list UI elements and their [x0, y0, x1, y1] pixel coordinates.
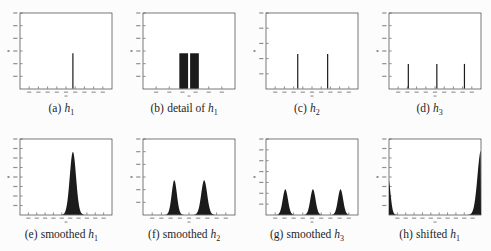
caption-text: shifted	[416, 228, 450, 240]
caption-text: detail of	[167, 102, 208, 114]
subplot-d-caption: (d)h3	[416, 102, 442, 115]
subplot-g: (g)smoothed h3	[246, 126, 369, 251]
subplot-a: (a)h1	[0, 0, 123, 126]
caption-subscript: 3	[340, 234, 344, 243]
caption-text: smoothed	[287, 228, 335, 240]
subplot-h-caption: (h)shifted h1	[399, 228, 460, 241]
caption-subscript: 1	[70, 108, 74, 117]
plot-d-canvas	[369, 0, 491, 101]
plot-g-canvas	[246, 126, 368, 227]
subplot-a-caption: (a)h1	[49, 102, 75, 115]
plot-h-canvas	[369, 126, 491, 227]
plot-f-canvas	[123, 126, 245, 227]
subplot-c: (c)h2	[246, 0, 369, 126]
subplot-b: (b)detail of h1	[123, 0, 246, 126]
caption-subscript: 1	[94, 234, 98, 243]
caption-text: smoothed	[163, 228, 211, 240]
plot-a-canvas	[0, 0, 122, 101]
subplot-e-caption: (e)smoothed h1	[25, 228, 98, 241]
caption-tag: (c)	[294, 102, 307, 114]
caption-subscript: 2	[216, 234, 220, 243]
subplot-f-caption: (f)smoothed h2	[148, 228, 220, 241]
plot-c-canvas	[246, 0, 368, 101]
caption-subscript: 2	[316, 108, 320, 117]
caption-tag: (f)	[148, 228, 160, 240]
caption-tag: (b)	[150, 102, 163, 114]
plot-e-canvas	[0, 126, 122, 227]
caption-text: smoothed	[41, 228, 89, 240]
caption-tag: (h)	[399, 228, 412, 240]
subplot-h: (h)shifted h1	[368, 126, 491, 251]
caption-tag: (e)	[25, 228, 38, 240]
subplot-e: (e)smoothed h1	[0, 126, 123, 251]
subplot-f: (f)smoothed h2	[123, 126, 246, 251]
histogram-figure: (a)h1 (b)detail of h1 (c)h2 (d)h3 (e)smo…	[0, 0, 491, 251]
caption-subscript: 3	[439, 108, 443, 117]
caption-tag: (d)	[416, 102, 429, 114]
subplot-d: (d)h3	[368, 0, 491, 126]
caption-subscript: 1	[214, 108, 218, 117]
plot-b-canvas	[123, 0, 245, 101]
caption-tag: (g)	[270, 228, 283, 240]
subplot-b-caption: (b)detail of h1	[150, 102, 217, 115]
caption-tag: (a)	[49, 102, 62, 114]
caption-subscript: 1	[456, 234, 460, 243]
subplot-c-caption: (c)h2	[294, 102, 320, 115]
subplot-g-caption: (g)smoothed h3	[270, 228, 344, 241]
